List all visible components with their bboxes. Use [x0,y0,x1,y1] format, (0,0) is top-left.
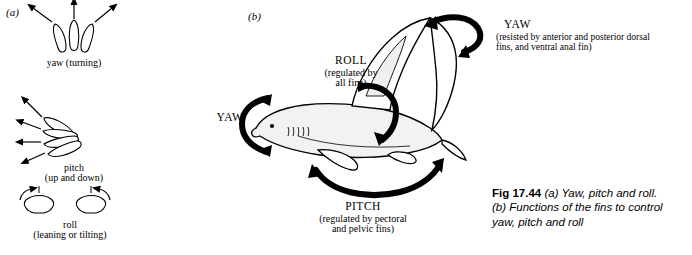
panel-a-tag: (a) [6,6,19,18]
label-yaw-right-heading: YAW [504,18,564,30]
figure-number: Fig 17.44 [492,187,541,199]
caption-part-b-line1: (b) Functions of the fins to control [492,201,663,213]
label-pitch-line2: and pelvic fins) [303,224,423,235]
label-roll-heading: ROLL [316,54,386,66]
label-roll-line2: all fins) [306,78,396,89]
panel-b-shark-figure [252,18,466,170]
panel-a-yaw-figure [33,4,112,52]
caption-part-a: (a) Yaw, pitch and roll. [544,187,657,199]
caption-part-b-line2: yaw, pitch and roll [492,216,583,228]
figure-17-44: (a) (b) yaw (turning) pitch (up and down… [0,0,692,255]
label-yaw-right-line1: (resisted by anterior and posterior dors… [496,32,686,42]
label-yaw-turning: yaw (turning) [14,58,134,69]
label-yaw-right-line2: fins, and ventral anal fin) [496,42,686,52]
panel-b-tag: (b) [248,10,261,22]
label-pitch-heading: PITCH [318,200,408,212]
label-roll-sub: (leaning or tilting) [4,230,136,241]
label-pitch-sub: (up and down) [14,173,134,184]
label-yaw-left-heading: YAW [200,111,260,123]
panel-a-pitch-figure [22,101,81,161]
panel-a-roll-figure [20,186,110,213]
figure-caption: Fig 17.44 (a) Yaw, pitch and roll. (b) F… [492,186,688,229]
pitch-arrow [308,158,444,195]
